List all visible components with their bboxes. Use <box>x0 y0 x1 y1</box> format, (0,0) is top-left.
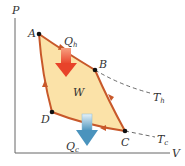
point-a <box>37 32 42 37</box>
isotherm-hot-label: Th <box>153 91 165 105</box>
y-axis-label: P <box>11 4 20 17</box>
isotherm-cold-label: Tc <box>157 133 168 147</box>
heat-in-label: Qh <box>64 35 78 49</box>
point-c <box>123 129 128 134</box>
x-axis-label: V <box>172 147 181 160</box>
label-d: D <box>40 113 50 126</box>
isotherm-cold-line <box>125 131 155 137</box>
label-c: C <box>121 136 130 149</box>
label-b: B <box>98 58 107 71</box>
label-a: A <box>27 27 36 40</box>
point-d <box>50 110 55 115</box>
heat-out-label: Qc <box>66 140 79 154</box>
carnot-pv-diagram: P V A B C D Qh W Qc Th Tc <box>0 0 185 166</box>
point-b <box>93 68 98 73</box>
work-label: W <box>73 86 86 99</box>
